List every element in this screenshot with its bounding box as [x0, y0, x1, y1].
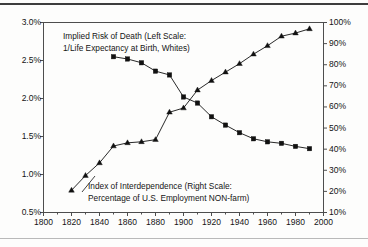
- x-tick-label-6: 1920: [198, 218, 226, 227]
- data-point: [265, 43, 271, 48]
- x-tick-label-8: 1960: [254, 218, 282, 227]
- right-tick-label-3: 70%: [329, 81, 346, 90]
- left-tick-label-5: 0.5%: [22, 208, 41, 217]
- x-tick-label-0: 1800: [30, 218, 58, 227]
- x-tick-label-2: 1840: [86, 218, 114, 227]
- annotation-interdep-line-1: Index of Interdependence (Right Scale:: [88, 181, 249, 193]
- left-tick-label-2: 2.0%: [22, 94, 41, 103]
- right-tick-label-7: 30%: [329, 166, 346, 175]
- left-tick-label-1: 2.5%: [22, 56, 41, 65]
- data-point: [307, 26, 313, 31]
- data-point: [181, 95, 185, 99]
- data-point: [111, 55, 115, 59]
- data-point: [195, 87, 201, 92]
- data-point: [223, 69, 229, 74]
- left-axis-ticks: [40, 23, 44, 213]
- annotation-implied-risk-of-death: Implied Risk of Death (Left Scale: 1/Lif…: [63, 31, 190, 54]
- annotation-index-of-interdependence: Index of Interdependence (Right Scale: P…: [88, 181, 249, 204]
- right-tick-label-6: 40%: [329, 145, 346, 154]
- data-point: [125, 57, 129, 61]
- x-tick-label-9: 1980: [282, 218, 310, 227]
- data-point: [139, 61, 143, 65]
- x-tick-label-1: 1820: [58, 218, 86, 227]
- series-implied-risk-of-death: [111, 55, 311, 151]
- data-point: [209, 78, 215, 83]
- data-point: [153, 69, 157, 73]
- x-tick-label-3: 1860: [114, 218, 142, 227]
- data-point: [251, 51, 257, 56]
- right-tick-label-1: 90%: [329, 39, 346, 48]
- annotation-death-line-1: Implied Risk of Death (Left Scale:: [63, 31, 190, 43]
- right-tick-label-0: 100%: [329, 18, 351, 27]
- data-point: [279, 141, 283, 145]
- left-tick-label-0: 3.0%: [22, 18, 41, 27]
- right-tick-label-8: 20%: [329, 187, 346, 196]
- data-point: [209, 115, 213, 119]
- right-tick-label-4: 60%: [329, 102, 346, 111]
- data-point: [195, 101, 199, 105]
- right-tick-label-9: 10%: [329, 208, 346, 217]
- left-tick-label-3: 1.5%: [22, 132, 41, 141]
- x-axis-ticks: [44, 213, 324, 217]
- right-tick-label-2: 80%: [329, 60, 346, 69]
- x-tick-label-10: 2000: [310, 218, 338, 227]
- x-tick-label-4: 1880: [142, 218, 170, 227]
- annotation-interdep-line-2: Percentage of U.S. Employment NON-farm): [88, 193, 249, 205]
- data-point: [251, 137, 255, 141]
- data-point: [293, 144, 297, 148]
- data-point: [167, 73, 171, 77]
- annotation-death-line-2: 1/Life Expectancy at Birth, Whites): [63, 43, 190, 55]
- chart-figure: 3.0%2.5%2.0%1.5%1.0%0.5%100%90%80%70%60%…: [0, 0, 368, 247]
- data-point: [153, 137, 159, 142]
- x-tick-label-5: 1900: [170, 218, 198, 227]
- x-tick-label-7: 1940: [226, 218, 254, 227]
- right-axis-ticks: [324, 23, 328, 213]
- data-point: [265, 140, 269, 144]
- data-point: [237, 61, 243, 66]
- left-tick-label-4: 1.0%: [22, 170, 41, 179]
- right-tick-label-5: 50%: [329, 124, 346, 133]
- data-point: [223, 123, 227, 127]
- data-point: [237, 131, 241, 135]
- data-point: [307, 146, 311, 150]
